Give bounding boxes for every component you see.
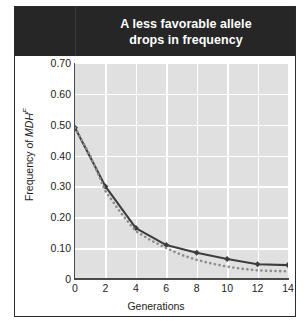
y-axis-tick-label: 0.30 [51, 180, 71, 192]
y-axis-tick-label: 0.20 [51, 211, 71, 223]
data-point-marker [255, 261, 261, 267]
x-axis-tick-label: 8 [194, 282, 200, 294]
y-axis-tick-label: 0 [65, 273, 71, 285]
data-point-marker [194, 250, 200, 256]
x-axis-label: Generations [15, 300, 297, 312]
x-axis-tick-label: 0 [72, 282, 78, 294]
data-point-marker [224, 256, 230, 262]
x-axis-tick-label: 6 [163, 282, 169, 294]
x-axis-tick-label: 2 [103, 282, 109, 294]
y-axis-tick-labels: 00.100.200.300.400.500.600.70 [29, 56, 73, 280]
chart-title-bar: A less favorable allele drops in frequen… [15, 7, 295, 56]
y-axis-tick-label: 0.40 [51, 150, 71, 162]
x-axis-tick-labels: 02468101214 [75, 282, 288, 298]
y-axis-tick-label: 0.60 [51, 88, 71, 100]
x-axis-tick-label: 4 [133, 282, 139, 294]
vertical-gridline [288, 63, 289, 279]
chart-title-line-2: drops in frequency [129, 33, 242, 47]
chart-title-line-1: A less favorable allele [120, 17, 251, 31]
data-series-layer [75, 63, 288, 279]
observed-frequency-line [75, 128, 288, 265]
y-axis-tick-label: 0.70 [51, 57, 71, 69]
x-axis-tick-label: 12 [252, 282, 264, 294]
data-point-marker [285, 262, 288, 268]
chart-title: A less favorable allele drops in frequen… [75, 7, 295, 56]
y-axis-tick-label: 0.10 [51, 242, 71, 254]
chart-region: Frequency of MDHF 00.100.200.300.400.500… [15, 56, 297, 316]
x-axis-tick-label: 10 [221, 282, 233, 294]
x-axis-tick-label: 14 [282, 282, 294, 294]
y-axis-tick-label: 0.50 [51, 119, 71, 131]
figure-panel: A less favorable allele drops in frequen… [14, 6, 296, 317]
